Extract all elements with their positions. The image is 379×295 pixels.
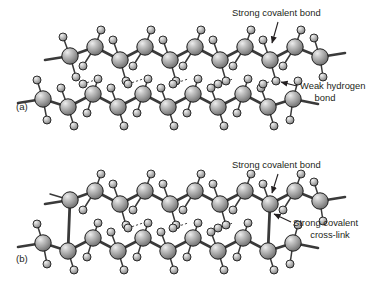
panel-label-a: (a) — [16, 101, 28, 112]
label-cross-link-line1: Strong covalent — [293, 217, 359, 228]
polymer-structure-figure: (a) Strong covalent bond Weak hydrogen b… — [0, 0, 379, 295]
label-strong-covalent-bond-b: Strong covalent bond — [232, 159, 321, 170]
label-cross-link-line2: cross-link — [310, 229, 350, 240]
label-weak-hydrogen-bond-line2: bond — [315, 92, 336, 103]
panel-label-b: (b) — [16, 253, 28, 264]
label-weak-hydrogen-bond-line1: Weak hydrogen — [300, 80, 366, 91]
label-strong-covalent-bond-a: Strong covalent bond — [232, 7, 321, 18]
